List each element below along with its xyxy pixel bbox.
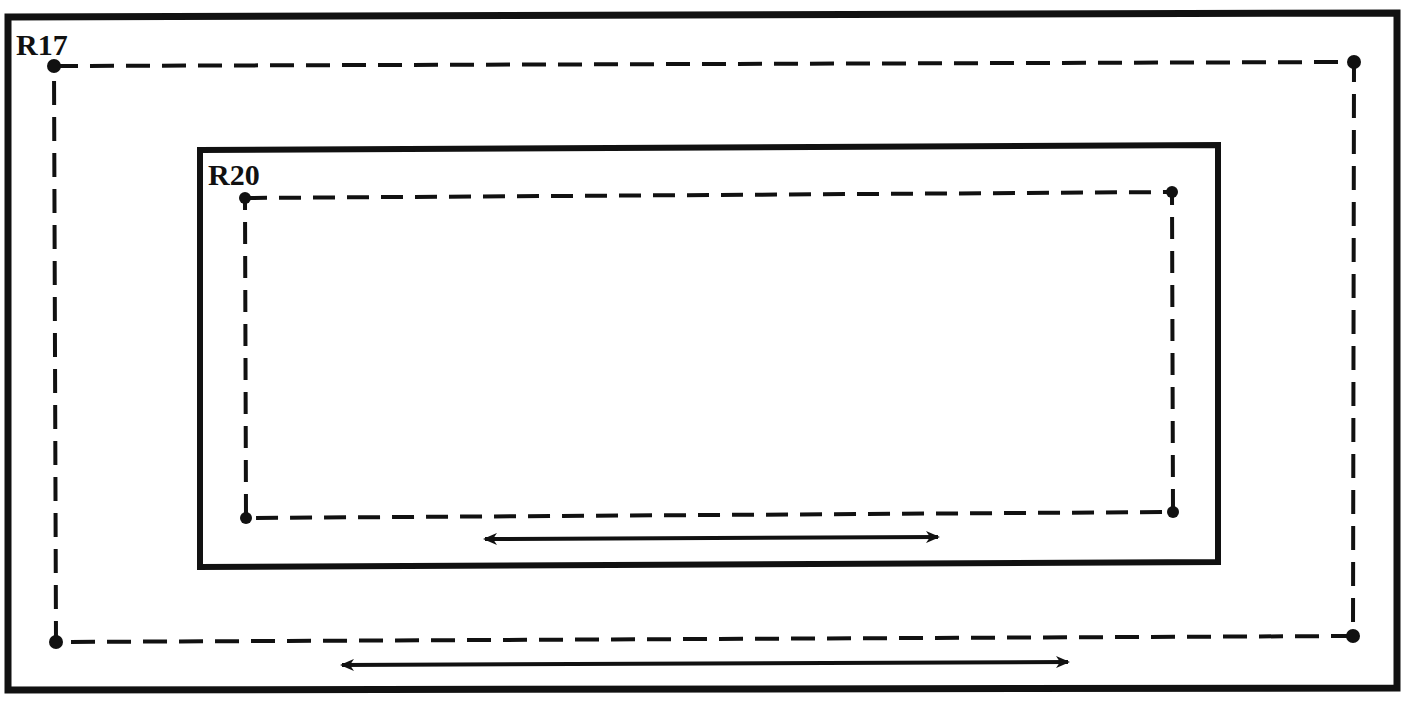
r20-corner-point-tl xyxy=(239,192,251,204)
nested-region-diagram xyxy=(0,0,1410,702)
r17-label: R17 xyxy=(16,30,68,60)
r20-corner-points xyxy=(239,186,1179,524)
r20-width-arrow xyxy=(485,537,938,539)
r20-label: R20 xyxy=(208,160,260,190)
r17-width-arrow xyxy=(342,662,1068,665)
r17-outer-border xyxy=(8,13,1397,690)
r20-outer-border xyxy=(200,145,1218,567)
r17-corner-point-br xyxy=(1346,629,1360,643)
r17-corner-point-bl xyxy=(49,635,63,649)
r20-dashed-boundary xyxy=(245,192,1173,518)
r17-corner-point-tl xyxy=(47,59,61,73)
r20-corner-point-tr xyxy=(1166,186,1178,198)
r20-corner-point-br xyxy=(1167,506,1179,518)
r17-corner-point-tr xyxy=(1347,55,1361,69)
r20-corner-point-bl xyxy=(240,512,252,524)
